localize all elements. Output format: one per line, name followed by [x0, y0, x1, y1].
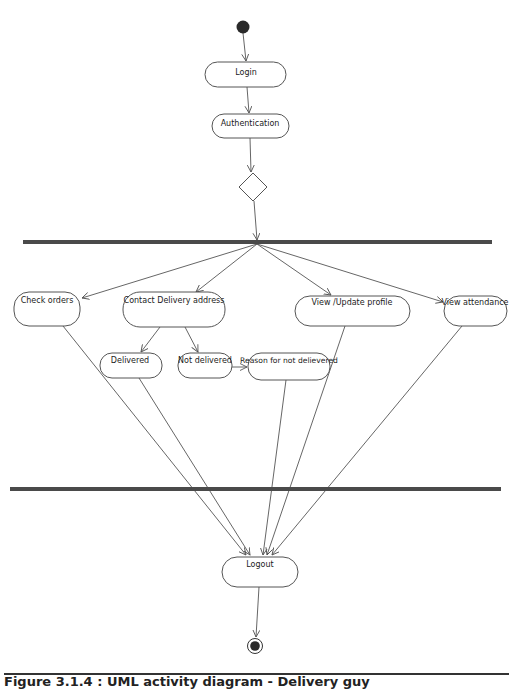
- action-logout: Logout: [222, 557, 298, 587]
- edge-contact-not-delivered: [185, 327, 198, 352]
- node-label: Reason for not delievered: [240, 356, 338, 365]
- edge-authentication-decision: [250, 138, 251, 172]
- node-label: Check orders: [21, 296, 74, 305]
- edge-delivered-logout: [139, 378, 250, 555]
- edge-decision-fork: [254, 201, 257, 240]
- edge-fork-contact-delivery: [196, 244, 257, 292]
- action-view-attendance: View attendance: [441, 296, 508, 326]
- node-label: Login: [235, 68, 257, 77]
- edge-fork-check-orders: [82, 244, 257, 298]
- fork-bar: [23, 240, 492, 244]
- action-login: Login: [205, 62, 286, 87]
- action-contact-delivery-address: Contact Delivery address: [123, 292, 225, 327]
- node-label: View /Update profile: [311, 298, 392, 307]
- action-reason-not-delivered: Reason for not delievered: [240, 353, 338, 380]
- edge-fork-view-attendance: [257, 244, 443, 302]
- figure-caption: Figure 3.1.4 : UML activity diagram - De…: [4, 674, 370, 689]
- action-not-delivered: Not delivered: [178, 353, 232, 378]
- edge-contact-delivered: [141, 327, 160, 352]
- action-check-orders: Check orders: [14, 292, 80, 326]
- action-view-update-profile: View /Update profile: [295, 296, 410, 326]
- node-label: View attendance: [441, 298, 508, 307]
- node-label: Contact Delivery address: [124, 296, 225, 305]
- edge-start-login: [243, 33, 246, 61]
- edge-logout-end: [256, 587, 259, 637]
- node-label: Delivered: [111, 356, 149, 365]
- join-bar: [10, 487, 501, 491]
- edge-reason-logout: [263, 380, 286, 555]
- action-delivered: Delivered: [100, 353, 162, 378]
- initial-node: [237, 21, 250, 34]
- node-label: Authentication: [221, 119, 280, 128]
- action-authentication: Authentication: [212, 114, 289, 138]
- node-label: Not delivered: [178, 356, 232, 365]
- final-node: [248, 639, 263, 654]
- node-label: Logout: [246, 560, 273, 569]
- edge-login-authentication: [247, 87, 249, 113]
- edge-fork-view-update-profile: [257, 244, 331, 295]
- decision-node: [239, 173, 267, 201]
